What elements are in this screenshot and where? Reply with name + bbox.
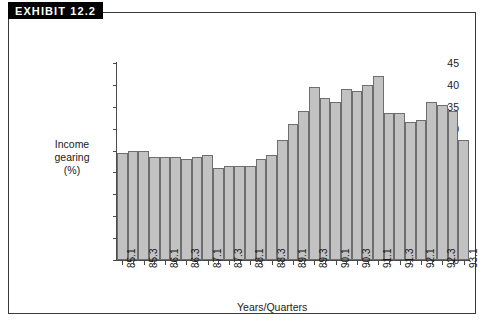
y-axis-title-line-3: (%) xyxy=(39,164,105,177)
bar xyxy=(394,113,405,260)
bar xyxy=(426,102,437,260)
y-axis-title-line-2: gearing xyxy=(39,151,105,164)
figure-frame: Income gearing (%) 051015202530354045 85… xyxy=(8,12,476,314)
x-axis-tick-label: 87.3 xyxy=(233,249,244,268)
bar xyxy=(352,91,363,260)
bar xyxy=(266,155,277,260)
x-axis-tick xyxy=(282,261,283,265)
bar xyxy=(170,157,181,260)
x-axis-tick xyxy=(368,261,369,265)
exhibit-figure: EXHIBIT 12.2 Income gearing (%) 05101520… xyxy=(0,0,486,330)
x-axis-tick xyxy=(293,261,294,265)
x-axis-tick xyxy=(325,261,326,265)
x-axis-tick-label: 92.3 xyxy=(446,249,457,268)
bar xyxy=(277,140,288,260)
bar xyxy=(160,157,171,260)
x-axis-tick-label: 89.1 xyxy=(297,249,308,268)
x-axis-tick xyxy=(165,261,166,265)
bar xyxy=(117,153,128,260)
x-axis-tick xyxy=(229,261,230,265)
bar xyxy=(384,113,395,260)
x-axis-tick xyxy=(250,261,251,265)
x-axis-tick xyxy=(442,261,443,265)
x-axis-tick-label: 88.1 xyxy=(254,249,265,268)
bar xyxy=(320,98,331,260)
x-axis-tick xyxy=(346,261,347,265)
y-axis-tick-label: 40 xyxy=(447,79,459,91)
x-axis-tick-label: 85.3 xyxy=(148,249,159,268)
x-axis-title: Years/Quarters xyxy=(237,301,307,313)
x-axis-tick xyxy=(314,261,315,265)
x-axis-tick xyxy=(133,261,134,265)
x-axis-tick xyxy=(410,261,411,265)
x-axis-tick xyxy=(176,261,177,265)
x-axis-tick xyxy=(400,261,401,265)
x-axis-tick xyxy=(421,261,422,265)
bar xyxy=(448,111,459,260)
x-axis-tick xyxy=(304,261,305,265)
x-axis-tick-label: 85.1 xyxy=(126,249,137,268)
y-axis-title-line-1: Income xyxy=(39,138,105,151)
exhibit-badge: EXHIBIT 12.2 xyxy=(8,2,103,19)
x-axis-tick-label: 92.1 xyxy=(425,249,436,268)
x-axis-tick xyxy=(432,261,433,265)
x-axis-tick xyxy=(378,261,379,265)
bar xyxy=(330,102,341,260)
bar xyxy=(309,87,320,260)
x-axis-tick-label: 89.3 xyxy=(318,249,329,268)
bar xyxy=(298,111,309,260)
bar xyxy=(458,140,469,260)
x-axis-tick xyxy=(453,261,454,265)
x-axis-tick-label: 91.1 xyxy=(382,249,393,268)
bar xyxy=(202,155,213,260)
x-axis-tick-label: 86.3 xyxy=(190,249,201,268)
x-axis-tick-label: 86.1 xyxy=(169,249,180,268)
x-axis-tick-label: 90.1 xyxy=(340,249,351,268)
x-axis-tick xyxy=(186,261,187,265)
bar xyxy=(245,166,256,260)
y-axis-tick xyxy=(113,129,117,130)
plot-area: 051015202530354045 xyxy=(117,63,469,260)
y-axis-title: Income gearing (%) xyxy=(39,138,105,177)
x-axis-tick xyxy=(197,261,198,265)
y-axis-tick xyxy=(113,151,117,152)
bar xyxy=(138,151,149,260)
bar xyxy=(405,122,416,260)
bar xyxy=(149,157,160,260)
x-axis-tick xyxy=(144,261,145,265)
x-axis-tick xyxy=(154,261,155,265)
bar xyxy=(362,85,373,260)
bar xyxy=(213,168,224,260)
x-axis-tick xyxy=(464,261,465,265)
bar xyxy=(128,151,139,260)
bar xyxy=(416,120,427,260)
bar xyxy=(192,157,203,260)
bar xyxy=(437,105,448,260)
bar xyxy=(341,89,352,260)
x-axis-tick xyxy=(272,261,273,265)
y-axis-tick xyxy=(113,85,117,86)
x-axis-tick xyxy=(336,261,337,265)
bar xyxy=(224,166,235,260)
x-axis-tick-label: 90.3 xyxy=(361,249,372,268)
x-axis-tick-label: 87.1 xyxy=(212,249,223,268)
x-axis-tick xyxy=(122,261,123,265)
x-axis-tick xyxy=(208,261,209,265)
x-axis-tick xyxy=(389,261,390,265)
y-axis-tick-label: 45 xyxy=(447,57,459,69)
bar xyxy=(288,124,299,260)
y-axis-tick xyxy=(113,63,117,64)
y-axis-tick xyxy=(113,107,117,108)
x-axis-tick xyxy=(240,261,241,265)
x-axis-tick xyxy=(218,261,219,265)
x-axis-tick-label: 93.1 xyxy=(468,249,479,268)
bar xyxy=(181,159,192,260)
x-axis-tick-label: 88.3 xyxy=(276,249,287,268)
x-axis-tick xyxy=(357,261,358,265)
x-axis-tick xyxy=(261,261,262,265)
x-axis-tick-label: 91.3 xyxy=(404,249,415,268)
bar xyxy=(373,76,384,260)
bar xyxy=(256,159,267,260)
bar xyxy=(234,166,245,260)
